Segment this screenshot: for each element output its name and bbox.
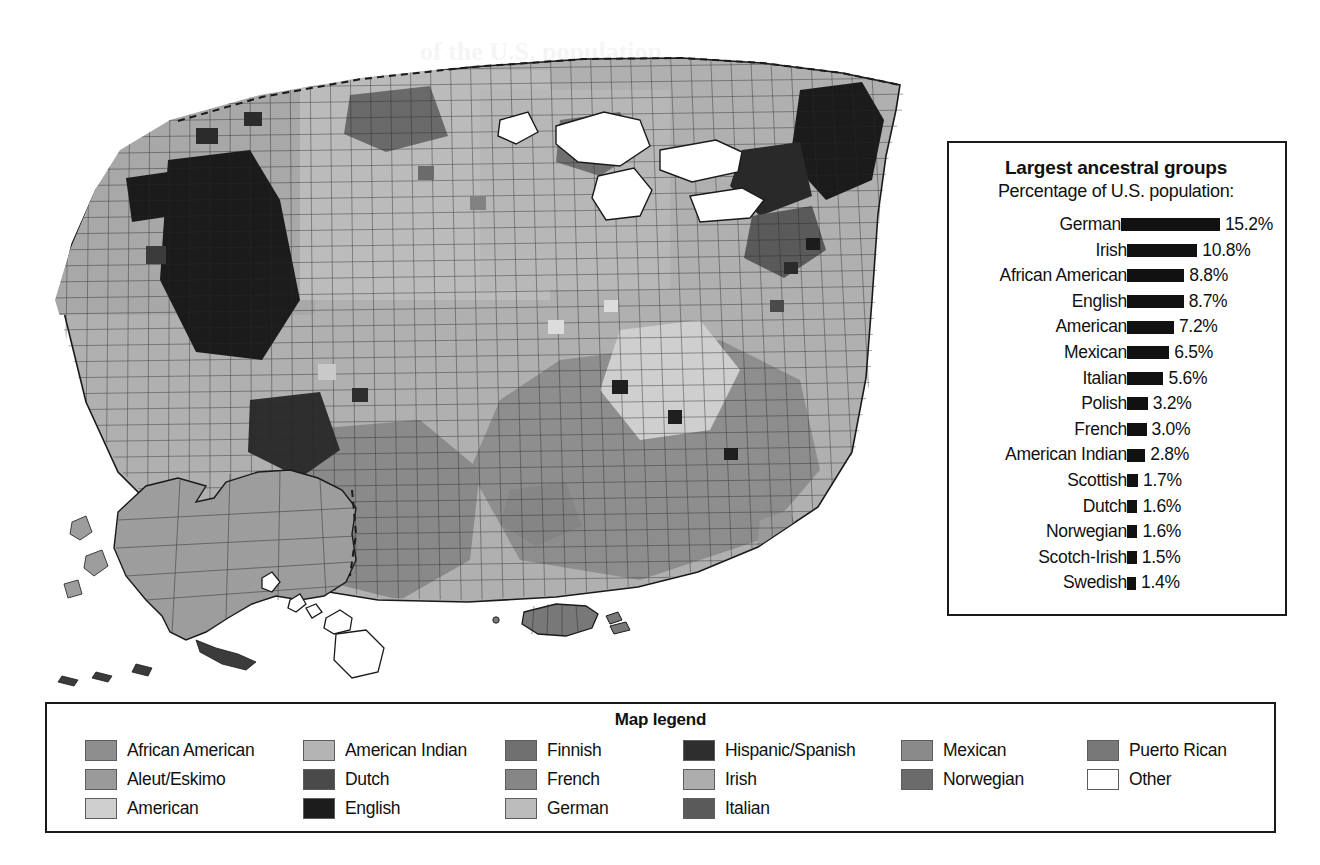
legend-item-label: American <box>127 798 199 819</box>
ancestry-bar-label: German <box>959 216 1121 234</box>
largest-ancestral-groups-panel: Largest ancestral groups Percentage of U… <box>947 141 1287 616</box>
ancestry-bar-label: Scotch-Irish <box>959 549 1127 567</box>
legend-color-swatch <box>1087 769 1119 790</box>
map-legend-item: German <box>505 794 677 823</box>
ancestry-bar-value: 2.8% <box>1145 446 1189 464</box>
map-legend-item: Finnish <box>505 736 677 765</box>
legend-color-swatch <box>683 769 715 790</box>
ancestry-bar-list: German15.2%Irish10.8%African American8.8… <box>959 212 1273 596</box>
legend-color-swatch <box>303 740 335 761</box>
map-legend-column: MexicanNorwegian <box>901 736 1081 823</box>
legend-item-label: American Indian <box>345 740 467 761</box>
legend-item-label: Irish <box>725 769 757 790</box>
ancestry-bar-row: Italian5.6% <box>959 366 1273 392</box>
ancestry-bar <box>1127 551 1137 564</box>
ancestry-bar-value: 5.6% <box>1163 370 1207 388</box>
ancestry-bar-label: Swedish <box>959 574 1127 592</box>
legend-color-swatch <box>505 769 537 790</box>
ancestry-bar-row: African American8.8% <box>959 263 1273 289</box>
ancestry-bar-row: Scotch-Irish1.5% <box>959 545 1273 571</box>
map-legend-column: Hispanic/SpanishIrishItalian <box>683 736 895 823</box>
ancestry-bar <box>1127 321 1174 334</box>
map-legend-title: Map legend <box>47 710 1274 730</box>
ancestry-bar-label: Italian <box>959 370 1127 388</box>
map-svg: of the U.S. population relationships <box>0 0 950 690</box>
alaska-inset <box>58 470 356 686</box>
puerto-rico-inset <box>493 604 630 636</box>
ancestry-bar-value: 1.6% <box>1137 523 1181 541</box>
legend-item-label: Other <box>1129 769 1171 790</box>
ancestry-bar-row: Norwegian1.6% <box>959 519 1273 545</box>
ancestry-bar-value: 1.5% <box>1137 549 1181 567</box>
ancestry-bar-row: Scottish1.7% <box>959 468 1273 494</box>
ancestry-bar <box>1127 346 1169 359</box>
ancestry-bar-label: French <box>959 421 1127 439</box>
ancestry-bar <box>1127 474 1138 487</box>
ancestry-bar <box>1121 218 1220 231</box>
ancestry-bar-value: 1.4% <box>1136 574 1180 592</box>
map-legend-item: Puerto Rican <box>1087 736 1267 765</box>
ancestry-bar-label: African American <box>959 267 1127 285</box>
ancestry-bar-row: Mexican6.5% <box>959 340 1273 366</box>
map-legend-box: Map legend African AmericanAleut/EskimoA… <box>45 702 1276 833</box>
ancestry-bar-row: Irish10.8% <box>959 238 1273 264</box>
ancestry-bar-value: 10.8% <box>1197 242 1250 260</box>
ancestry-bar-label: Irish <box>959 242 1127 260</box>
map-legend-item: Hispanic/Spanish <box>683 736 895 765</box>
ancestry-bar <box>1127 500 1137 513</box>
legend-color-swatch <box>683 798 715 819</box>
legend-color-swatch <box>85 798 117 819</box>
legend-item-label: Dutch <box>345 769 389 790</box>
ancestry-bar-row: French3.0% <box>959 417 1273 443</box>
legend-color-swatch <box>85 769 117 790</box>
map-legend-item: Other <box>1087 765 1267 794</box>
legend-color-swatch <box>303 798 335 819</box>
legend-item-label: Hispanic/Spanish <box>725 740 855 761</box>
legend-item-label: German <box>547 798 608 819</box>
ancestry-bar <box>1127 525 1137 538</box>
map-legend-item: African American <box>85 736 297 765</box>
ancestry-bar <box>1127 423 1147 436</box>
legend-item-label: English <box>345 798 400 819</box>
ancestry-bar-value: 7.2% <box>1174 318 1218 336</box>
legend-color-swatch <box>901 769 933 790</box>
map-legend-column: FinnishFrenchGerman <box>505 736 677 823</box>
legend-color-swatch <box>505 798 537 819</box>
ancestry-bar <box>1127 577 1136 590</box>
map-legend-item: Dutch <box>303 765 499 794</box>
map-legend-item: Mexican <box>901 736 1081 765</box>
ancestry-bar-value: 8.8% <box>1184 267 1228 285</box>
map-legend-column: African AmericanAleut/EskimoAmerican <box>85 736 297 823</box>
ancestry-bar-row: English8.7% <box>959 289 1273 315</box>
map-legend-item: English <box>303 794 499 823</box>
ancestry-bar <box>1127 269 1184 282</box>
ancestry-bar-row: Polish3.2% <box>959 391 1273 417</box>
ancestry-bar <box>1127 372 1163 385</box>
map-legend-item: Aleut/Eskimo <box>85 765 297 794</box>
legend-item-label: French <box>547 769 600 790</box>
map-legend-item: Irish <box>683 765 895 794</box>
map-legend-item: American Indian <box>303 736 499 765</box>
ancestry-bar-label: Dutch <box>959 498 1127 516</box>
map-legend-item: American <box>85 794 297 823</box>
legend-color-swatch <box>505 740 537 761</box>
ancestry-bar-row: American Indian2.8% <box>959 442 1273 468</box>
map-legend-grid: African AmericanAleut/EskimoAmericanAmer… <box>47 730 1274 823</box>
map-legend-item: Italian <box>683 794 895 823</box>
ancestry-bar-row: American7.2% <box>959 314 1273 340</box>
map-legend-item: Norwegian <box>901 765 1081 794</box>
legend-item-label: Italian <box>725 798 770 819</box>
ancestry-bar-value: 8.7% <box>1184 293 1228 311</box>
legend-item-label: Norwegian <box>943 769 1024 790</box>
ancestry-bar-label: American Indian <box>959 446 1127 464</box>
ancestry-bar <box>1127 295 1184 308</box>
ancestry-bar-row: German15.2% <box>959 212 1273 238</box>
legend-item-label: Aleut/Eskimo <box>127 769 226 790</box>
ancestry-panel-title: Largest ancestral groups <box>959 157 1273 179</box>
legend-color-swatch <box>85 740 117 761</box>
ancestry-bar <box>1127 244 1197 257</box>
legend-item-label: Finnish <box>547 740 601 761</box>
ancestry-bar-value: 3.0% <box>1147 421 1191 439</box>
legend-color-swatch <box>1087 740 1119 761</box>
ancestry-bar-label: Norwegian <box>959 523 1127 541</box>
